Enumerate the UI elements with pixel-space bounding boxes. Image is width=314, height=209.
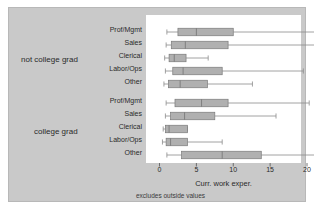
cat-label-sales-0: Sales bbox=[50, 39, 142, 47]
cat-label-prof-mgmt-0: Prof/Mgmt bbox=[50, 26, 142, 34]
x-tick-label-20: 20 bbox=[297, 166, 314, 173]
plot-area bbox=[146, 15, 301, 163]
x-axis-title: Curr. work exper. bbox=[146, 179, 301, 188]
cat-label-sales-1: Sales bbox=[50, 110, 142, 118]
cat-label-prof-mgmt-1: Prof/Mgmt bbox=[50, 97, 142, 105]
category-label-column: Prof/Mgmt Sales Clerical Labor/Ops Other… bbox=[45, 8, 142, 163]
cat-label-clerical-0: Clerical bbox=[50, 52, 142, 60]
x-tick-label-0: 0 bbox=[150, 166, 170, 173]
chart-page: not college grad college grad Prof/Mgmt … bbox=[0, 0, 314, 209]
x-tick-label-15: 15 bbox=[260, 166, 280, 173]
chart-footnote: excludes outside values bbox=[136, 192, 205, 199]
cat-label-clerical-1: Clerical bbox=[50, 123, 142, 131]
figure-panel: not college grad college grad Prof/Mgmt … bbox=[8, 7, 306, 202]
cat-label-other-0: Other bbox=[50, 78, 142, 86]
cat-label-other-1: Other bbox=[50, 149, 142, 157]
cat-label-labor-ops-0: Labor/Ops bbox=[50, 65, 142, 73]
x-tick-label-10: 10 bbox=[223, 166, 243, 173]
x-tick-label-5: 5 bbox=[186, 166, 206, 173]
cat-label-labor-ops-1: Labor/Ops bbox=[50, 136, 142, 144]
